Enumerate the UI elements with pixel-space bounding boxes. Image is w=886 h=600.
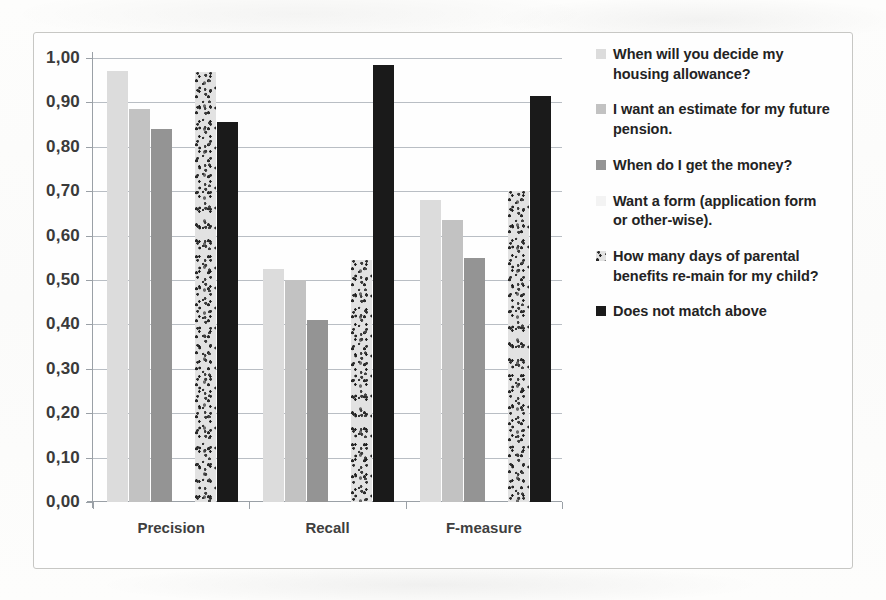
legend-swatch-icon — [596, 104, 606, 114]
legend-label: How many days of parental benefits re-ma… — [613, 247, 834, 286]
x-axis-tick — [562, 502, 563, 509]
legend-item[interactable]: I want an estimate for my future pension… — [596, 100, 834, 139]
y-axis-tick-label: 0,00 — [46, 492, 80, 512]
legend-label: I want an estimate for my future pension… — [613, 100, 834, 139]
legend-swatch-icon — [596, 251, 606, 261]
y-axis-tick — [86, 102, 93, 103]
x-axis-tick-label: Recall — [305, 519, 349, 536]
y-axis-tick-label: 0,30 — [46, 359, 80, 379]
y-axis-tick — [86, 58, 93, 59]
legend-item[interactable]: When will you decide my housing allowanc… — [596, 45, 834, 84]
legend-swatch-icon — [596, 306, 606, 316]
y-axis-tick-label: 0,80 — [46, 137, 80, 157]
legend-label: When do I get the money? — [613, 156, 792, 176]
y-axis-tick — [86, 236, 93, 237]
x-axis-tick — [406, 502, 407, 509]
y-axis-tick — [86, 369, 93, 370]
y-axis-tick — [86, 458, 93, 459]
plot-area: 1,000,900,800,700,600,500,400,300,200,10… — [93, 58, 562, 502]
y-axis-tick-label: 0,70 — [46, 181, 80, 201]
x-axis-tick — [249, 502, 250, 509]
legend-item[interactable]: Does not match above — [596, 302, 834, 322]
y-axis-tick — [86, 191, 93, 192]
legend-item[interactable]: When do I get the money? — [596, 156, 834, 176]
legend-label: When will you decide my housing allowanc… — [613, 45, 834, 84]
legend-label: Does not match above — [613, 302, 767, 322]
y-axis-tick-label: 0,40 — [46, 314, 80, 334]
x-axis-tick-label: F-measure — [446, 519, 522, 536]
y-axis-tick-label: 0,20 — [46, 403, 80, 423]
y-axis-tick-label: 0,90 — [46, 92, 80, 112]
chart-frame: 1,000,900,800,700,600,500,400,300,200,10… — [33, 32, 853, 569]
y-axis-tick — [86, 413, 93, 414]
x-axis-tick-labels: PrecisionRecallF-measure — [93, 58, 562, 502]
legend-label: Want a form (application form or other-w… — [613, 192, 834, 231]
legend-swatch-icon — [596, 196, 606, 206]
y-axis-tick-label: 0,60 — [46, 226, 80, 246]
y-axis-tick-label: 0,10 — [46, 448, 80, 468]
x-axis-tick-label: Precision — [137, 519, 205, 536]
y-axis-tick — [86, 280, 93, 281]
legend-item[interactable]: How many days of parental benefits re-ma… — [596, 247, 834, 286]
chart-legend: When will you decide my housing allowanc… — [596, 45, 834, 338]
legend-swatch-icon — [596, 160, 606, 170]
x-axis-tick — [93, 502, 94, 509]
y-axis-tick — [86, 147, 93, 148]
y-axis-tick-label: 1,00 — [46, 48, 80, 68]
y-axis-tick-label: 0,50 — [46, 270, 80, 290]
y-axis-tick — [86, 324, 93, 325]
legend-item[interactable]: Want a form (application form or other-w… — [596, 192, 834, 231]
legend-swatch-icon — [596, 49, 606, 59]
y-axis-tick — [86, 502, 93, 503]
